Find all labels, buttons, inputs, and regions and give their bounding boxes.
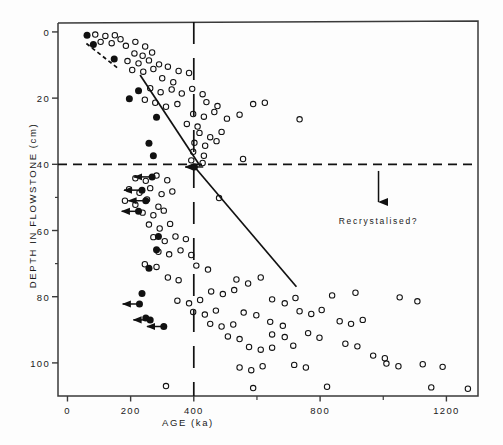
data-point-filled (84, 32, 91, 39)
data-point-open (309, 311, 314, 316)
data-point-open (280, 323, 285, 328)
data-point-open (297, 309, 302, 314)
data-point-open (151, 213, 156, 218)
data-point-open (154, 264, 159, 269)
data-point-open (158, 89, 163, 94)
data-point-open (224, 116, 229, 121)
data-point-open (246, 344, 251, 349)
data-point-open (225, 334, 230, 339)
data-point-open (156, 62, 161, 67)
data-point-open (214, 138, 219, 143)
data-point-open (156, 204, 161, 209)
y-tick-label: 40 (16, 159, 50, 170)
data-point-open (240, 156, 245, 161)
data-point-open (149, 50, 154, 55)
data-point-open (176, 68, 181, 73)
data-point-open (319, 307, 324, 312)
data-point-open (303, 365, 308, 370)
data-point-open (109, 40, 114, 45)
recrystalised-annotation-label: Recrystalised? (339, 216, 419, 226)
data-point-open (370, 353, 375, 358)
data-point-open (360, 317, 365, 322)
data-point-filled (135, 87, 142, 94)
data-point-open (204, 99, 209, 104)
data-point-open (254, 313, 259, 318)
data-point-open (237, 336, 242, 341)
data-point-open (140, 53, 145, 58)
upper-trend-line (140, 75, 200, 166)
data-point-open (292, 362, 297, 367)
scatter-plot-svg (0, 0, 503, 445)
data-point-open (126, 186, 131, 191)
data-point-filled (149, 173, 156, 180)
data-point-filled (160, 323, 167, 330)
data-point-filled (145, 265, 152, 272)
data-point-open (343, 341, 348, 346)
data-point-open (176, 277, 181, 282)
data-point-open (200, 160, 205, 165)
data-point-open (234, 277, 239, 282)
data-point-open (195, 124, 200, 129)
data-point-open (160, 76, 165, 81)
data-point-open (324, 384, 329, 389)
data-point-open (268, 319, 273, 324)
data-point-filled (191, 163, 198, 170)
data-point-open (201, 114, 206, 119)
data-point-open (213, 308, 218, 313)
data-point-open (142, 44, 147, 49)
figure-container: AGE (ka) DEPTH IN FLOWSTONE (cm) 0200400… (0, 0, 503, 445)
data-point-open (166, 252, 171, 257)
data-point-open (208, 321, 213, 326)
x-tick-label: 0 (64, 405, 71, 416)
data-point-open (157, 226, 162, 231)
data-point-open (355, 344, 360, 349)
data-point-open (165, 64, 170, 69)
x-tick-label: 1200 (433, 405, 459, 416)
data-point-open (167, 221, 172, 226)
data-point-open (420, 362, 425, 367)
data-point-open (415, 299, 420, 304)
data-point-open (250, 385, 255, 390)
data-point-filled (135, 208, 142, 215)
data-point-open (132, 51, 137, 56)
y-tick-label: 0 (16, 26, 50, 37)
data-point-filled (111, 56, 118, 63)
data-point-open (208, 134, 213, 139)
data-point-open (282, 334, 287, 339)
data-point-open (337, 319, 342, 324)
data-point-filled (145, 140, 152, 147)
data-point-open (189, 158, 194, 163)
data-point-open (465, 386, 470, 391)
y-axis-title: DEPTH IN FLOWSTONE (cm) (27, 111, 38, 301)
x-tick-label: 200 (121, 405, 141, 416)
data-point-open (183, 236, 188, 241)
data-point-open (93, 32, 98, 37)
data-point-open (175, 101, 180, 106)
data-point-open (112, 33, 117, 38)
data-point-open (384, 361, 389, 366)
data-point-open (205, 267, 210, 272)
data-point-filled (126, 95, 133, 102)
x-axis-title: AGE (ka) (162, 417, 214, 428)
data-point-open (162, 238, 167, 243)
data-point-open (291, 343, 296, 348)
data-point-open (397, 295, 402, 300)
data-point-open (142, 97, 147, 102)
data-point-open (269, 297, 274, 302)
data-point-open (215, 103, 220, 108)
data-point-open (269, 332, 274, 337)
data-point-filled (136, 300, 143, 307)
data-point-open (133, 202, 138, 207)
data-point-open (159, 191, 164, 196)
data-point-open (146, 58, 151, 63)
data-point-open (317, 335, 322, 340)
data-point-open (231, 322, 236, 327)
data-point-open (163, 104, 168, 109)
data-point-open (163, 383, 168, 388)
x-tick-label: 400 (184, 405, 204, 416)
data-point-open (245, 281, 250, 286)
data-point-open (184, 121, 189, 126)
data-point-open (353, 290, 358, 295)
data-point-open (429, 385, 434, 390)
data-point-open (212, 109, 217, 114)
